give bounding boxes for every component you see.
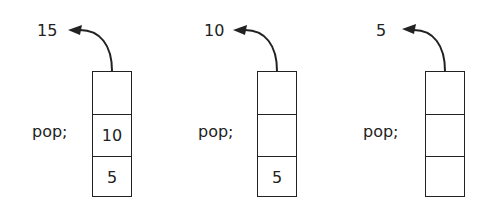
stack-cell	[258, 72, 296, 114]
pop-arrow-icon	[163, 0, 326, 205]
pop-panel-1: 15 pop; 10 5	[0, 0, 163, 205]
stack-cell	[426, 72, 464, 114]
stack-cell: 5	[93, 156, 131, 198]
operation-label: pop;	[363, 124, 399, 140]
stack	[425, 71, 465, 197]
popped-value: 15	[37, 23, 57, 39]
pop-panel-2: 10 pop; 5	[163, 0, 326, 205]
stack-cell: 5	[258, 156, 296, 198]
popped-value: 10	[204, 23, 224, 39]
stack: 5	[257, 71, 297, 197]
stack: 10 5	[92, 71, 132, 197]
pop-panel-3: 5 pop;	[326, 0, 489, 205]
stack-cell: 10	[93, 114, 131, 156]
operation-label: pop;	[198, 124, 234, 140]
stack-cell	[258, 114, 296, 156]
stack-cell	[93, 72, 131, 114]
pop-arrow-icon	[0, 0, 163, 205]
stack-cell	[426, 114, 464, 156]
popped-value: 5	[376, 23, 386, 39]
stack-cell	[426, 156, 464, 198]
operation-label: pop;	[32, 124, 68, 140]
